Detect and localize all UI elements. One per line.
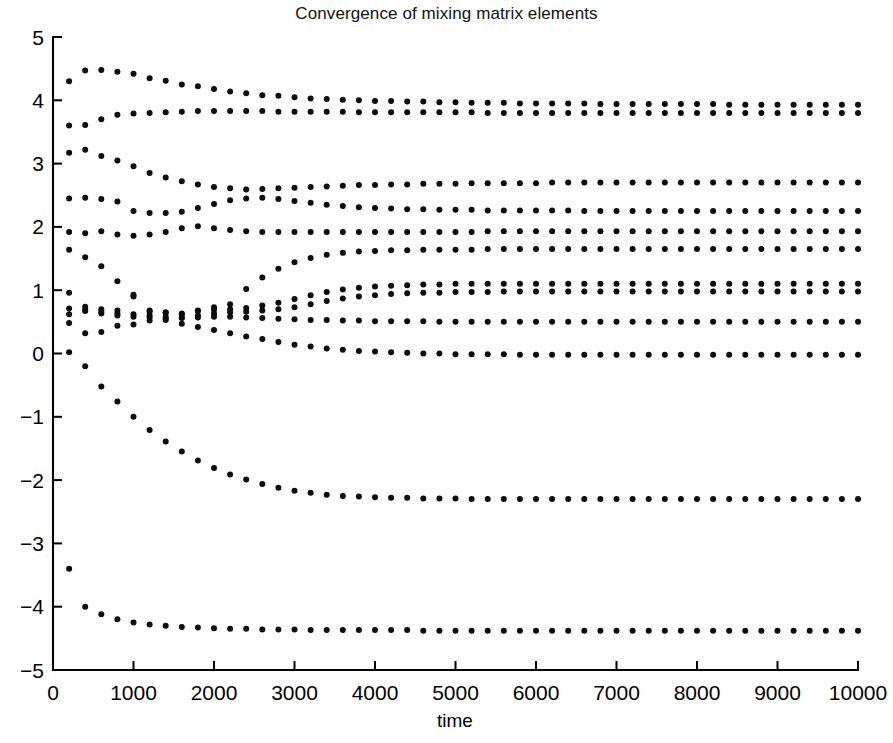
x-tick-labels: 0100020003000400050006000700080009000100… bbox=[47, 681, 887, 704]
data-point bbox=[308, 301, 314, 307]
data-point bbox=[340, 627, 346, 633]
data-point bbox=[581, 180, 587, 186]
data-point bbox=[372, 318, 378, 324]
data-point bbox=[710, 496, 716, 502]
data-point bbox=[694, 101, 700, 107]
data-point bbox=[742, 180, 748, 186]
data-point bbox=[388, 283, 394, 289]
data-point bbox=[195, 314, 201, 320]
data-point bbox=[791, 102, 797, 108]
data-point bbox=[340, 295, 346, 301]
data-point bbox=[807, 628, 813, 634]
data-point bbox=[227, 626, 233, 632]
data-point bbox=[533, 100, 539, 106]
data-point bbox=[292, 296, 298, 302]
data-point bbox=[758, 180, 764, 186]
data-point bbox=[533, 207, 539, 213]
data-point bbox=[807, 281, 813, 287]
data-point bbox=[356, 182, 362, 188]
data-point bbox=[356, 97, 362, 103]
data-point bbox=[340, 287, 346, 293]
data-point bbox=[597, 628, 603, 634]
data-point bbox=[517, 496, 523, 502]
data-point bbox=[340, 229, 346, 235]
data-point bbox=[565, 246, 571, 252]
data-point bbox=[98, 67, 104, 73]
data-point bbox=[275, 300, 281, 306]
data-point bbox=[726, 352, 732, 358]
data-point bbox=[565, 288, 571, 294]
data-point bbox=[131, 620, 137, 626]
data-point bbox=[275, 485, 281, 491]
data-point bbox=[485, 228, 491, 234]
data-point bbox=[404, 247, 410, 253]
data-point bbox=[469, 289, 475, 295]
data-point bbox=[404, 318, 410, 324]
data-point bbox=[694, 319, 700, 325]
data-point bbox=[678, 228, 684, 234]
data-point bbox=[597, 319, 603, 325]
data-point bbox=[308, 200, 314, 206]
data-point bbox=[855, 288, 861, 294]
data-point bbox=[791, 352, 797, 358]
data-point bbox=[292, 626, 298, 632]
data-point bbox=[807, 228, 813, 234]
data-point bbox=[340, 109, 346, 115]
data-point bbox=[758, 281, 764, 287]
data-point bbox=[839, 110, 845, 116]
data-point bbox=[243, 286, 249, 292]
data-point bbox=[324, 229, 330, 235]
data-point bbox=[565, 628, 571, 634]
data-point bbox=[775, 352, 781, 358]
data-point bbox=[163, 623, 169, 629]
data-point bbox=[163, 438, 169, 444]
data-point bbox=[453, 495, 459, 501]
data-point bbox=[710, 246, 716, 252]
data-point bbox=[855, 110, 861, 116]
y-tick-labels: −5−4−3−2−1012345 bbox=[20, 26, 44, 682]
data-point bbox=[485, 351, 491, 357]
data-point bbox=[66, 150, 72, 156]
data-point bbox=[195, 223, 201, 229]
data-point bbox=[211, 314, 217, 320]
data-point bbox=[630, 246, 636, 252]
data-point bbox=[694, 281, 700, 287]
data-point bbox=[823, 319, 829, 325]
data-point bbox=[243, 108, 249, 114]
data-point bbox=[147, 232, 153, 238]
data-point bbox=[581, 110, 587, 116]
data-point bbox=[662, 208, 668, 214]
data-point bbox=[726, 180, 732, 186]
data-point bbox=[646, 628, 652, 634]
data-point bbox=[614, 208, 620, 214]
y-tick-marks bbox=[53, 37, 62, 670]
data-point bbox=[98, 383, 104, 389]
data-point bbox=[678, 496, 684, 502]
data-point bbox=[791, 208, 797, 214]
data-point bbox=[404, 109, 410, 115]
data-point bbox=[163, 210, 169, 216]
data-point bbox=[388, 291, 394, 297]
data-point bbox=[791, 319, 797, 325]
data-point bbox=[646, 246, 652, 252]
data-point bbox=[823, 180, 829, 186]
data-point bbox=[839, 102, 845, 108]
data-point bbox=[630, 628, 636, 634]
data-point bbox=[147, 110, 153, 116]
data-point bbox=[807, 102, 813, 108]
data-point bbox=[581, 288, 587, 294]
data-point bbox=[453, 351, 459, 357]
data-point bbox=[775, 102, 781, 108]
series-element-6 bbox=[66, 246, 861, 317]
data-point bbox=[533, 352, 539, 358]
data-point bbox=[308, 317, 314, 323]
data-point bbox=[372, 248, 378, 254]
data-point bbox=[324, 202, 330, 208]
data-point bbox=[453, 109, 459, 115]
data-point bbox=[292, 342, 298, 348]
data-point bbox=[66, 320, 72, 326]
data-point bbox=[420, 495, 426, 501]
data-point bbox=[517, 319, 523, 325]
x-tick-label: 10000 bbox=[829, 681, 887, 704]
data-point bbox=[678, 208, 684, 214]
